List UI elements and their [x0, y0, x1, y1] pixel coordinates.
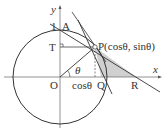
x-axis-label: x: [152, 63, 158, 75]
point-t-label: T: [49, 41, 56, 53]
line-apr: [50, 24, 160, 92]
point-r-label: R: [131, 79, 139, 91]
point-q-label: Q: [97, 79, 105, 91]
theta-label: θ: [75, 64, 81, 76]
line-through-p-steep: [72, 12, 106, 62]
point-p-label: P(cosθ, sinθ): [98, 40, 155, 53]
point-a-label: A: [62, 20, 70, 32]
point-p-marker: [93, 45, 97, 49]
right-angle-marker: [60, 44, 63, 47]
y-axis-label: y: [50, 3, 56, 15]
theta-arc: [68, 71, 70, 78]
y-axis-arrow: [59, 5, 62, 9]
origin-label: O: [50, 79, 58, 91]
unit-circle-diagram: y x 1 A T O P(cosθ, sinθ) θ cosθ Q R: [0, 0, 166, 134]
cos-theta-label: cosθ: [72, 79, 92, 91]
one-label: 1: [51, 20, 57, 32]
x-axis-arrow: [158, 76, 162, 79]
